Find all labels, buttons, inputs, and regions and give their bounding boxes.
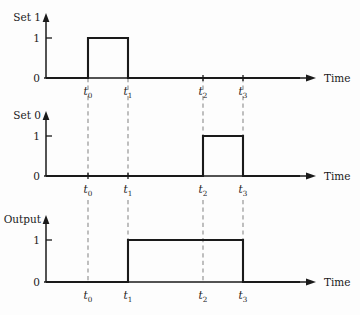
time-marker-label-t0-set-0: t0 xyxy=(84,183,93,198)
time-axis-label-set-1: Time xyxy=(324,72,351,84)
timing-diagram-figure: Set 1 1 0 Time t0 t1 t2 t3 Set 0 1 0 Tim… xyxy=(0,0,360,315)
value-label-low-output: 0 xyxy=(33,276,40,288)
time-marker-label-t2-output: t2 xyxy=(199,289,208,304)
value-label-high-set-0: 1 xyxy=(33,130,40,142)
value-label-low-set-0: 0 xyxy=(33,170,40,182)
panel-set-0: Set 0 1 0 Time t0 t1 t2 t3 xyxy=(13,109,350,198)
panel-label-set-0: Set 0 xyxy=(13,109,41,121)
time-marker-label-t1-output: t1 xyxy=(124,289,133,304)
value-axis-arrow-set-0 xyxy=(43,111,50,120)
time-axis-arrow-output xyxy=(306,278,316,285)
time-axis-label-output: Time xyxy=(324,276,351,288)
time-marker-label-t3-set-0: t3 xyxy=(239,183,248,198)
time-axis-arrow-set-0 xyxy=(306,172,316,179)
value-axis-arrow-set-1 xyxy=(43,13,50,22)
value-axis-arrow-output xyxy=(43,215,50,224)
time-marker-guides xyxy=(88,78,243,282)
time-marker-label-t3-output: t3 xyxy=(239,289,248,304)
value-label-high-set-1: 1 xyxy=(33,32,40,44)
value-label-high-output: 1 xyxy=(33,234,40,246)
time-marker-label-t0-output: t0 xyxy=(84,289,93,304)
waveform-set-0 xyxy=(46,136,300,176)
value-label-low-set-1: 0 xyxy=(33,72,40,84)
timing-diagram-canvas: Set 1 1 0 Time t0 t1 t2 t3 Set 0 1 0 Tim… xyxy=(0,0,360,315)
time-marker-label-t1-set-0: t1 xyxy=(124,183,133,198)
waveform-output xyxy=(46,240,300,282)
panel-set-1: Set 1 1 0 Time t0 t1 t2 t3 xyxy=(13,11,350,100)
time-axis-label-set-0: Time xyxy=(324,170,351,182)
time-axis-arrow-set-1 xyxy=(306,74,316,81)
time-marker-label-t2-set-0: t2 xyxy=(199,183,208,198)
panel-label-output: Output xyxy=(4,213,42,225)
panel-label-set-1: Set 1 xyxy=(13,11,41,23)
waveform-set-1 xyxy=(46,38,300,78)
panel-output: Output 1 0 Time t0 t1 t2 t3 xyxy=(4,213,351,304)
